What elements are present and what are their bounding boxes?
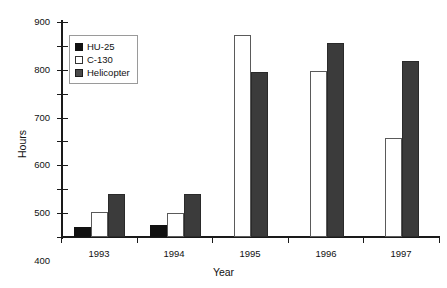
x-axis-category-label: 1997 [390, 249, 411, 259]
legend-swatch-c-130-icon [75, 56, 83, 64]
y-axis-tick: 900 [57, 22, 68, 23]
x-axis-category-label: 1995 [239, 249, 260, 259]
legend-item-helicopter: Helicopter [75, 66, 130, 79]
bar-c-130-1995 [234, 35, 251, 237]
bar-helicopter-1997 [402, 61, 419, 237]
bar-hu-25-1993 [74, 227, 91, 237]
y-axis-tick: 200 [57, 189, 68, 190]
y-axis-tick: 800 [57, 46, 68, 47]
y-axis-tick: 100 [57, 213, 68, 214]
legend-swatch-helicopter-icon [75, 69, 83, 77]
y-axis-title: Hours [16, 130, 28, 158]
bar-chart: Hours 19931994199519961997 0100200300400… [0, 0, 447, 288]
legend-label-hu-25: HU-25 [87, 41, 114, 52]
legend-label-helicopter: Helicopter [87, 67, 130, 78]
y-axis-tick-label: 900 [34, 17, 50, 27]
y-axis-tick-label: 400 [34, 256, 50, 266]
bar-helicopter-1993 [108, 194, 125, 237]
bar-helicopter-1994 [184, 194, 201, 237]
y-axis-tick: 0 [57, 237, 68, 238]
bar-hu-25-1994 [150, 225, 167, 237]
bar-c-130-1997 [385, 138, 402, 237]
y-axis-tick: 400 [57, 141, 68, 142]
bar-c-130-1994 [167, 213, 184, 237]
y-axis-tick-label: 500 [34, 208, 50, 218]
x-axis-tick [363, 236, 364, 243]
legend-item-c-130: C-130 [75, 53, 130, 66]
x-axis-tick [137, 236, 138, 243]
legend-swatch-hu-25-icon [75, 43, 83, 51]
y-axis-tick-label: 700 [34, 113, 50, 123]
y-axis-tick-label: 600 [34, 161, 50, 171]
y-axis-tick: 500 [57, 118, 68, 119]
bar-c-130-1993 [91, 212, 108, 237]
bar-helicopter-1996 [327, 43, 344, 237]
bar-helicopter-1995 [251, 72, 268, 237]
x-axis-tick [288, 236, 289, 243]
y-axis-tick: 300 [57, 165, 68, 166]
x-axis-tick [212, 236, 213, 243]
x-axis-category-label: 1996 [315, 249, 336, 259]
x-axis-title: Year [0, 266, 447, 278]
x-axis-category-label: 1993 [88, 249, 109, 259]
y-axis-tick: 600 [57, 94, 68, 95]
bar-c-130-1996 [310, 71, 327, 237]
y-axis-tick: 700 [57, 70, 68, 71]
chart-legend: HU-25 C-130 Helicopter [69, 35, 138, 84]
legend-item-hu-25: HU-25 [75, 40, 130, 53]
legend-label-c-130: C-130 [87, 54, 113, 65]
x-axis-tick [439, 236, 440, 243]
y-axis-tick-label: 800 [34, 65, 50, 75]
x-axis-category-label: 1994 [163, 249, 184, 259]
